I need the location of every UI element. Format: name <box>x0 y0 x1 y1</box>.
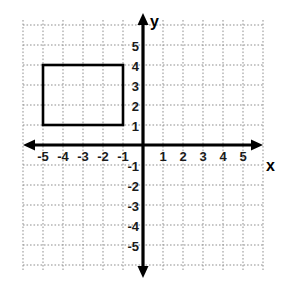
y-tick-label--2: -2 <box>117 180 139 193</box>
y-tick-label--1: -1 <box>117 160 139 173</box>
y-tick-label--3: -3 <box>117 200 139 213</box>
x-tick-label-2: 2 <box>173 150 193 163</box>
x-tick-label--5: -5 <box>33 150 53 163</box>
x-axis-label: x <box>266 158 275 174</box>
x-tick-label--2: -2 <box>93 150 113 163</box>
y-tick-label-1: 1 <box>121 120 139 133</box>
x-tick-label-4: 4 <box>213 150 233 163</box>
y-tick-label--4: -4 <box>117 220 139 233</box>
y-axis-label: y <box>150 14 159 30</box>
coordinate-plane-figure: -5 -4 -3 -2 -1 1 2 3 4 5 5 4 3 2 1 -1 -2… <box>0 0 290 293</box>
x-tick-label-3: 3 <box>193 150 213 163</box>
x-tick-label--4: -4 <box>53 150 73 163</box>
x-tick-label--3: -3 <box>73 150 93 163</box>
x-tick-label-5: 5 <box>233 150 253 163</box>
y-tick-label-4: 4 <box>121 60 139 73</box>
coordinate-grid-svg <box>0 0 290 293</box>
y-tick-label-3: 3 <box>121 80 139 93</box>
y-tick-label--5: -5 <box>117 240 139 253</box>
x-tick-label-1: 1 <box>153 150 173 163</box>
y-tick-label-2: 2 <box>121 100 139 113</box>
y-tick-label-5: 5 <box>121 40 139 53</box>
